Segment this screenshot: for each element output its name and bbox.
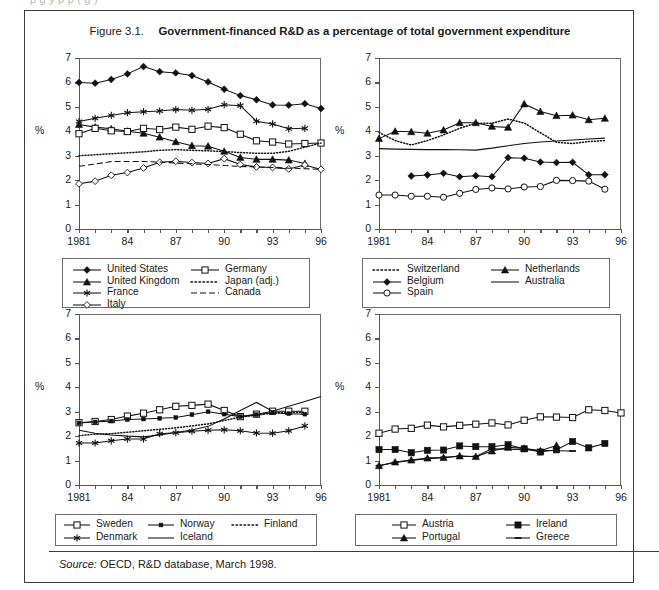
series-netherlands [375, 100, 608, 141]
source-note: Source: OECD, R&D database, March 1998. [59, 558, 277, 570]
legend-key-filled-square [506, 519, 530, 531]
series-belgium [408, 154, 608, 180]
series-spain [376, 177, 608, 200]
legend-key [73, 287, 101, 299]
legend-label: United Kingdom [107, 275, 180, 286]
figure-title-text: Government-financed R&D as a percentage … [158, 25, 570, 37]
legend-key-open-square [392, 519, 416, 531]
legend-key-line [191, 287, 219, 299]
legend-key-asterisk [73, 287, 101, 299]
legend-key [73, 276, 101, 288]
legend-key-line [191, 276, 219, 288]
chart-panel-c: 01234567%19818487909396 [31, 301, 331, 516]
legend-key [392, 519, 416, 531]
figure-title: Figure 3.1. Government-financed R&D as a… [25, 25, 635, 37]
legend-key-line [232, 519, 258, 531]
series-austria [376, 407, 624, 437]
legend-key-open-diamond [73, 299, 101, 311]
legend-panel-b: SwitzerlandBelgiumSpainNetherlandsAustra… [362, 258, 610, 308]
legend-key [491, 264, 519, 276]
legend-label: Canada [225, 286, 261, 297]
legend-key-filled-diamond [73, 264, 101, 276]
legend-key [191, 287, 219, 299]
legend-label: Belgium [407, 275, 444, 286]
legend-key [64, 519, 90, 531]
legend-key [73, 264, 101, 276]
legend-label: Italy [107, 298, 126, 309]
series-germany [76, 123, 324, 147]
legend-label: Sweden [96, 518, 133, 529]
legend-label: United States [107, 263, 168, 274]
legend-key [506, 519, 530, 531]
legend-label: Austria [422, 518, 454, 529]
legend-key [148, 532, 174, 544]
legend-label: Australia [525, 275, 565, 286]
source-label: Source: [59, 558, 97, 570]
legend-label: France [107, 286, 139, 297]
legend-key-small-filled-square [148, 519, 174, 531]
series-layer [331, 45, 631, 260]
legend-label: Denmark [96, 531, 137, 542]
legend-key [392, 532, 416, 544]
legend-panel-c: SwedenNorwayFinlandDenmarkIceland [55, 514, 317, 546]
legend-key-line [491, 276, 519, 288]
legend-panel-d: AustriaIrelandPortugalGreece [355, 514, 617, 546]
legend-key-open-square [64, 519, 90, 531]
legend-key-line [373, 264, 401, 276]
legend-key [491, 276, 519, 288]
legend-key [373, 276, 401, 288]
series-layer [31, 45, 331, 260]
legend-label: Greece [536, 531, 569, 542]
page-bleed-text: p g y p p ( g ) [0, 0, 641, 9]
legend-label: Spain [407, 286, 433, 297]
legend-key [506, 532, 530, 544]
legend-key-filled-triangle [392, 532, 416, 544]
page-bleed-line: p g y p p ( g ) [30, 0, 98, 5]
figure-frame: Figure 3.1. Government-financed R&D as a… [24, 10, 634, 583]
legend-label: Netherlands [525, 263, 580, 274]
chart-panel-d: 01234567%19818487909396 [331, 301, 631, 516]
legend-label: Ireland [536, 518, 567, 529]
legend-key-asterisk [64, 532, 90, 544]
source-divider [49, 551, 659, 552]
legend-label: Portugal [422, 531, 460, 542]
legend-label: Norway [180, 518, 215, 529]
legend-key [232, 519, 258, 531]
legend-label: Japan (adj.) [225, 275, 279, 286]
legend-label: Finland [264, 518, 297, 529]
chart-panel-a: 01234567%19818487909396 [31, 45, 331, 260]
legend-key-line [148, 532, 174, 544]
legend-label: Germany [225, 263, 267, 274]
series-japan-adj [79, 143, 321, 156]
legend-key-filled-triangle [491, 264, 519, 276]
legend-key-open-square [191, 264, 219, 276]
legend-label: Iceland [180, 531, 213, 542]
figure-number: Figure 3.1. [90, 25, 144, 37]
legend-key [148, 519, 174, 531]
legend-key-open-circle [373, 287, 401, 299]
legend-key [191, 276, 219, 288]
legend-key-filled-diamond [373, 276, 401, 288]
source-text: OECD, R&D database, March 1998. [100, 558, 277, 570]
legend-key [73, 299, 101, 311]
legend-key [373, 264, 401, 276]
series-layer [331, 301, 631, 516]
chart-panel-b: 01234567%19818487909396 [331, 45, 631, 260]
legend-panel-a: United StatesUnited KingdomFranceItalyGe… [62, 258, 310, 308]
series-united-states [76, 63, 325, 112]
series-layer [31, 301, 331, 516]
legend-label: Switzerland [407, 263, 460, 274]
legend-key [373, 287, 401, 299]
legend-key [64, 532, 90, 544]
legend-key-dash [506, 532, 530, 544]
legend-key-filled-triangle [73, 276, 101, 288]
legend-key [191, 264, 219, 276]
